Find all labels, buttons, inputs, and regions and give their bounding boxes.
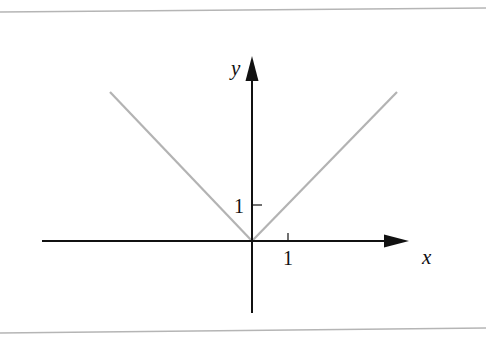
curve-left-branch [110, 92, 252, 241]
graph-canvas: 1 1 x y [0, 0, 486, 344]
top-border-rule [0, 8, 486, 12]
y-axis-label: y [229, 56, 241, 80]
y-tick-label: 1 [234, 195, 244, 217]
curve-right-branch [252, 92, 397, 241]
y-axis-arrow-icon [246, 56, 259, 81]
y-axis [246, 56, 259, 313]
x-axis-label: x [421, 245, 432, 269]
x-axis [42, 235, 409, 248]
absolute-value-curve [110, 92, 397, 241]
x-tick-label: 1 [283, 247, 293, 269]
x-axis-arrow-icon [384, 235, 409, 248]
bottom-border-rule [0, 328, 486, 333]
